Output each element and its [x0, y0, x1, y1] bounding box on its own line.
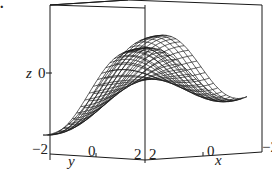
- box-top-right: [128, 0, 262, 5]
- x-tick-neg2: −2: [262, 140, 272, 155]
- box-left-edge: [50, 0, 128, 160]
- y-tick-neg2: −2: [32, 142, 48, 157]
- mesh-line: [63, 48, 155, 128]
- y-tick-2: 2: [134, 147, 142, 162]
- y-tick-0: 0: [88, 144, 96, 159]
- x-tick-2: 2: [149, 147, 157, 162]
- z-axis-label: z: [26, 66, 32, 81]
- z-tick-0: 0: [38, 66, 46, 81]
- box-top-front: [50, 5, 145, 8]
- mesh-line: [48, 49, 140, 135]
- box-top-back: [50, 0, 128, 5]
- x-axis-label: x: [215, 153, 222, 168]
- mesh-line: [43, 37, 155, 135]
- x-tick-0: 0: [207, 144, 215, 159]
- y-axis-label: y: [68, 154, 75, 169]
- y-axis-line: [50, 154, 145, 160]
- mesh-line: [51, 35, 163, 135]
